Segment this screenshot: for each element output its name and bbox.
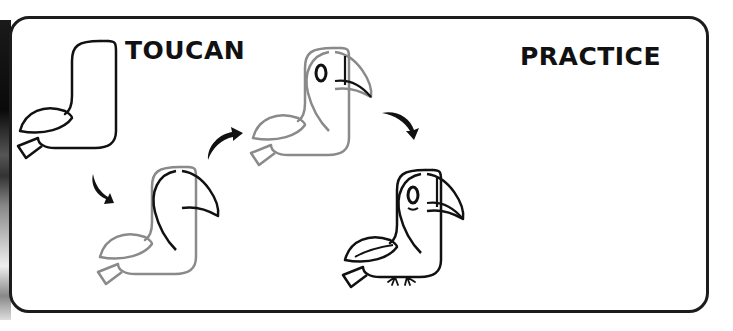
step-1-toucan — [18, 41, 116, 158]
toucan-steps-illustration — [0, 0, 733, 331]
step-3-toucan — [251, 48, 371, 165]
arrow-step3-to-step4 — [382, 112, 419, 140]
arrow-step1-to-step2 — [92, 174, 114, 204]
step-4-toucan — [343, 170, 463, 287]
arrow-step2-to-step3 — [208, 127, 243, 160]
step-2-toucan — [98, 167, 218, 284]
